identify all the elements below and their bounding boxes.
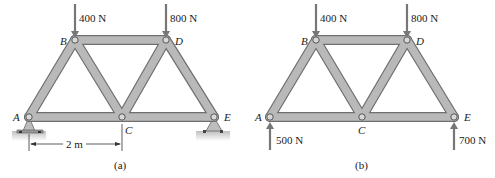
dimension-label-a: 2 m — [66, 138, 83, 150]
load-label-800-b: 800 N — [411, 12, 438, 24]
reaction-label-500-b: 500 N — [276, 134, 303, 146]
caption-a: (a) — [114, 159, 127, 172]
joint-label-d-b: D — [415, 35, 424, 47]
joint-label-b-b: B — [301, 35, 308, 47]
figure-b: 400 N 800 N 500 N 700 N B D A C E (b) — [254, 4, 486, 172]
ground-a-right — [196, 131, 230, 141]
load-label-400-a: 400 N — [79, 12, 106, 24]
joint-label-e-a: E — [223, 111, 231, 123]
truss-diagram: 400 N 800 N B D A C E 2 m (a) — [0, 0, 495, 178]
load-arrow-800-b — [403, 4, 411, 38]
load-label-800-a: 800 N — [170, 12, 197, 24]
reaction-label-700-b: 700 N — [459, 134, 486, 146]
joint-label-b-a: B — [60, 35, 67, 47]
load-label-400-b: 400 N — [320, 12, 347, 24]
reaction-arrow-500-b — [266, 122, 274, 150]
truss-members-a — [29, 40, 214, 117]
caption-b: (b) — [355, 159, 368, 172]
truss-members-b — [270, 40, 454, 117]
joint-label-d-a: D — [174, 35, 183, 47]
load-arrow-400-a — [71, 4, 79, 38]
joint-label-a-a: A — [12, 111, 20, 123]
reaction-arrow-700-b — [450, 122, 458, 150]
joint-label-c-b: C — [358, 124, 366, 136]
joint-label-c-a: C — [125, 124, 133, 136]
figure-a: 400 N 800 N B D A C E 2 m (a) — [12, 4, 231, 172]
joint-label-e-b: E — [463, 111, 471, 123]
load-arrow-800-a — [162, 4, 170, 38]
load-arrow-400-b — [312, 4, 320, 38]
joint-label-a-b: A — [254, 111, 262, 123]
